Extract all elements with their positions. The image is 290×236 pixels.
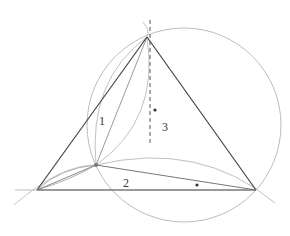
triangle-side-right bbox=[147, 37, 256, 190]
big-circle bbox=[87, 28, 281, 222]
inner-point bbox=[94, 163, 98, 167]
line-top-inner bbox=[96, 37, 147, 165]
dot-circumcenter bbox=[153, 108, 156, 111]
dot-base bbox=[195, 183, 198, 186]
region-label-1: 1 bbox=[99, 114, 105, 128]
region-label-3: 3 bbox=[162, 120, 168, 134]
left-construction-arc bbox=[14, 165, 96, 205]
line-inner-right bbox=[96, 165, 256, 190]
region-label-2: 2 bbox=[123, 176, 129, 190]
geometry-diagram: 1 2 3 bbox=[0, 0, 290, 236]
